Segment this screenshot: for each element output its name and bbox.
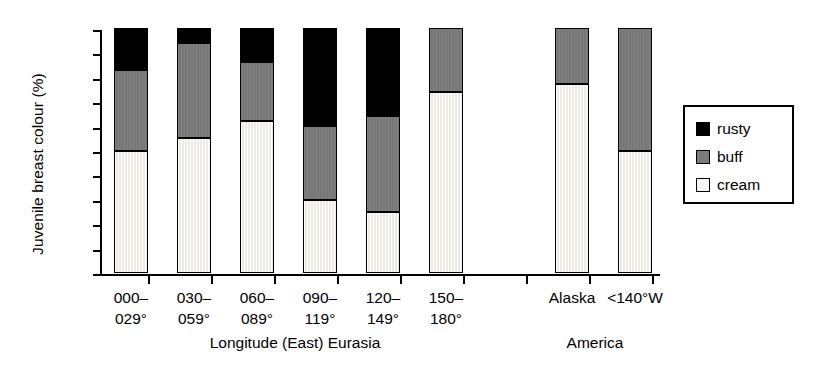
bar-segment-rusty: [303, 28, 337, 126]
y-tick-50: [93, 152, 100, 154]
legend-label-buff: buff: [717, 149, 743, 165]
legend-label-rusty: rusty: [717, 121, 751, 137]
y-tick-10: [93, 250, 100, 252]
bar-segment-cream: [177, 138, 211, 273]
x-tick-3: [337, 276, 339, 284]
y-axis-line: [100, 30, 102, 276]
legend-swatch-cream-icon: [696, 178, 710, 192]
y-tick-0: [93, 274, 100, 276]
legend-label-cream: cream: [717, 177, 760, 193]
legend-item-buff: buff: [696, 148, 743, 166]
y-axis-label: Juvenile breast colour (%): [29, 34, 47, 294]
legend-item-cream: cream: [696, 176, 760, 194]
y-tick-90: [93, 54, 100, 56]
bar-segment-cream: [618, 151, 652, 274]
y-tick-20: [93, 225, 100, 227]
bar-segment-cream: [555, 84, 589, 273]
y-tick-80: [93, 79, 100, 81]
legend-swatch-rusty-icon: [696, 122, 710, 136]
y-tick-60: [93, 128, 100, 130]
group-label-eurasia: Longitude (East) Eurasia: [160, 334, 430, 352]
bar-segment-rusty: [177, 28, 211, 43]
bar-segment-cream: [429, 92, 463, 273]
y-tick-40: [93, 176, 100, 178]
x-category-label-150-180: 150– 180°: [398, 287, 494, 329]
bar-segment-cream: [303, 200, 337, 274]
chart-figure: Juvenile breast colour (%) 100 90 80 70 …: [0, 0, 823, 374]
bar-segment-rusty: [114, 28, 148, 70]
legend-item-rusty: rusty: [696, 120, 751, 138]
x-tick-6: [526, 276, 528, 284]
bar-segment-buff: [429, 28, 463, 92]
bar-segment-buff: [114, 70, 148, 151]
x-tick-7: [589, 276, 591, 284]
x-tick-1: [211, 276, 213, 284]
x-tick-5: [463, 276, 465, 284]
bar-segment-rusty: [366, 28, 400, 116]
bar-segment-buff: [240, 62, 274, 121]
y-tick-70: [93, 103, 100, 105]
plot-area: [100, 30, 660, 275]
x-axis-line: [100, 274, 660, 276]
bar-segment-buff: [618, 28, 652, 150]
bar-segment-rusty: [240, 28, 274, 62]
bar-segment-buff: [177, 43, 211, 139]
legend-swatch-buff-icon: [696, 150, 710, 164]
x-tick-4: [400, 276, 402, 284]
bar-segment-buff: [366, 116, 400, 212]
bar-segment-cream: [240, 121, 274, 273]
bar-segment-buff: [555, 28, 589, 84]
x-tick-2: [274, 276, 276, 284]
bar-segment-cream: [366, 212, 400, 273]
bar-segment-buff: [303, 126, 337, 200]
x-tick-0: [148, 276, 150, 284]
y-tick-30: [93, 201, 100, 203]
x-category-label-140w: <140°W: [587, 287, 683, 308]
group-label-america: America: [520, 334, 670, 352]
y-tick-100: [93, 30, 100, 32]
x-tick-8: [652, 276, 654, 284]
bar-segment-cream: [114, 151, 148, 274]
legend: rusty buff cream: [683, 105, 794, 204]
